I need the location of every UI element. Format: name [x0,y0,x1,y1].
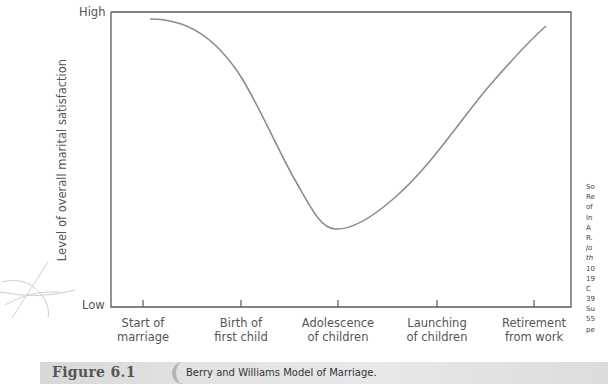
x-tick-line2: first child [191,330,291,344]
x-tick-label-adolescence-of-children: Adolescence of children [288,316,388,344]
source-line: 55 [586,314,608,324]
source-line: Re [586,192,608,202]
source-line: So [586,182,608,192]
x-tick-line2: marriage [93,330,193,344]
x-tick-line2: from work [484,330,584,344]
x-tick-line1: Retirement [484,316,584,330]
figure-number: Figure 6.1 [52,364,136,380]
source-line: of [586,202,608,212]
source-line: 19 [586,274,608,284]
source-line: R. [586,233,608,243]
source-line: Jo [586,243,608,253]
y-tick-high: High [79,5,105,19]
decorative-swirl-icon [0,262,75,318]
x-tick-label-birth-of-first-child: Birth of first child [191,316,291,344]
x-tick-line2: of children [288,330,388,344]
plot-frame [111,12,571,307]
x-tick-line1: Birth of [191,316,291,330]
source-line: A [586,223,608,233]
satisfaction-curve [150,19,546,229]
source-line: C [586,284,608,294]
source-citation: So Re of In A R. Jo th 10 19 C 39 Su 55 … [586,182,608,335]
source-line: pe [586,325,608,335]
x-tick-label-retirement-from-work: Retirement from work [484,316,584,344]
x-tick-line1: Adolescence [288,316,388,330]
x-axis-ticks [143,300,534,307]
y-tick-low: Low [82,298,105,312]
source-line: th [586,253,608,263]
source-line: Su [586,304,608,314]
source-line: 39 [586,294,608,304]
source-line: In [586,213,608,223]
x-tick-line2: of children [387,330,487,344]
x-tick-label-launching-of-children: Launching of children [387,316,487,344]
y-axis-label: Level of overall marital satisfaction [55,59,69,261]
x-tick-line1: Start of [93,316,193,330]
x-tick-label-start-of-marriage: Start of marriage [93,316,193,344]
x-tick-line1: Launching [387,316,487,330]
figure-caption-text: Berry and Williams Model of Marriage. [186,367,377,378]
source-line: 10 [586,264,608,274]
figure-caption-bar: Figure 6.1 Berry and Williams Model of M… [40,362,608,384]
